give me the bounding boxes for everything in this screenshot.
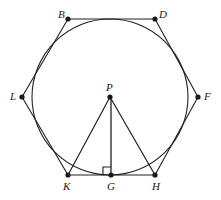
vertex-label-d: D [159,9,167,20]
vertex-label-b: B [58,9,65,20]
point-marker-p [107,94,112,99]
geometry-figure: B D F H G K L P [0,0,221,200]
point-marker-k [65,172,70,177]
point-marker-b [65,16,70,21]
point-marker-f [195,94,200,99]
segment-ph [110,97,155,175]
point-marker-l [19,94,24,99]
vertex-label-k: K [63,181,70,192]
point-marker-h [152,172,157,177]
vertex-label-h: H [152,181,160,192]
point-marker-g [108,172,113,177]
point-marker-d [152,16,157,21]
vertex-label-l: L [10,91,16,102]
geometry-canvas [0,0,221,200]
vertex-label-f: F [204,91,211,102]
vertex-label-g: G [107,181,115,192]
segment-pk [68,97,110,175]
vertex-label-p: P [106,82,113,93]
